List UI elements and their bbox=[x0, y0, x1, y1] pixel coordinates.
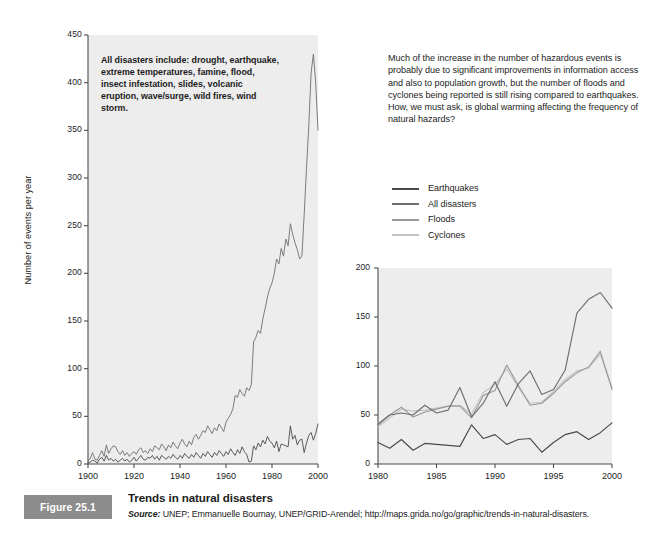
y-tick-label: 400 bbox=[48, 78, 82, 87]
legend-item-label: All disasters bbox=[428, 200, 476, 209]
legend-item: Earthquakes bbox=[392, 181, 582, 197]
y-tick-label-wrap: 450 bbox=[46, 30, 82, 40]
y-tick-label: 50 bbox=[48, 411, 82, 420]
y-tick-label-wrap: 50 bbox=[46, 411, 82, 421]
legend-color-swatch bbox=[392, 188, 419, 190]
y-tick-label-wrap: 350 bbox=[46, 125, 82, 135]
inset-chart: 05010015020019801985199019952000 bbox=[340, 255, 653, 495]
figure-container: All disasters include: drought, earthqua… bbox=[0, 0, 653, 533]
y-tick-label: 300 bbox=[48, 173, 82, 182]
legend-color-swatch bbox=[392, 234, 419, 236]
x-tick-label: 1980 bbox=[357, 472, 399, 481]
y-tick-label: 50 bbox=[340, 410, 370, 419]
x-tick-label: 1995 bbox=[533, 472, 575, 481]
y-tick-label-wrap: 200 bbox=[340, 263, 370, 273]
x-tick-label: 1900 bbox=[67, 472, 109, 481]
y-tick-label: 200 bbox=[340, 263, 370, 272]
y-tick-label: 0 bbox=[48, 459, 82, 468]
inset-chart-svg bbox=[340, 255, 653, 495]
y-tick-label: 100 bbox=[340, 361, 370, 370]
legend-color-swatch bbox=[392, 203, 419, 205]
source-keyword: Source: bbox=[128, 509, 160, 519]
y-tick-label-wrap: 400 bbox=[46, 78, 82, 88]
y-tick-label: 150 bbox=[340, 312, 370, 321]
x-tick-label: 1960 bbox=[205, 472, 247, 481]
series-line-earthquakes bbox=[378, 423, 612, 452]
y-tick-label-wrap: 300 bbox=[46, 173, 82, 183]
y-tick-label: 150 bbox=[48, 316, 82, 325]
y-tick-label-wrap: 50 bbox=[340, 410, 370, 420]
y-tick-label: 100 bbox=[48, 364, 82, 373]
series-line-all-disasters bbox=[88, 54, 318, 461]
figure-title: Trends in natural disasters bbox=[128, 491, 273, 504]
y-tick-label-wrap: 100 bbox=[340, 361, 370, 371]
figure-number-badge: Figure 25.1 bbox=[24, 495, 112, 519]
main-chart-svg bbox=[0, 0, 340, 500]
series-line-all-disasters bbox=[378, 293, 612, 425]
legend-item: Floods bbox=[392, 212, 582, 228]
x-tick-label: 1920 bbox=[113, 472, 155, 481]
source-text: UNEP; Emmanuelle Bournay, UNEP/GRID-Aren… bbox=[160, 509, 589, 519]
y-tick-label-wrap: 250 bbox=[46, 221, 82, 231]
legend-item-label: Floods bbox=[428, 215, 455, 224]
series-line-floods bbox=[378, 351, 612, 424]
y-tick-label: 450 bbox=[48, 30, 82, 39]
y-tick-label-wrap: 200 bbox=[46, 268, 82, 278]
legend-item-label: Cyclones bbox=[428, 231, 465, 240]
legend-item-label: Earthquakes bbox=[428, 184, 479, 193]
figure-caption: Figure 25.1 Trends in natural disasters … bbox=[0, 489, 653, 533]
legend-color-swatch bbox=[392, 219, 419, 221]
figure-source: Source: UNEP; Emmanuelle Bournay, UNEP/G… bbox=[128, 509, 589, 519]
y-tick-label: 250 bbox=[48, 221, 82, 230]
y-tick-label-wrap: 150 bbox=[46, 316, 82, 326]
series-line-earthquakes bbox=[88, 424, 318, 463]
y-tick-label-wrap: 150 bbox=[340, 312, 370, 322]
intro-paragraph: Much of the increase in the number of ha… bbox=[388, 52, 640, 126]
y-tick-label: 0 bbox=[340, 459, 370, 468]
legend-item: Cyclones bbox=[392, 228, 582, 244]
x-tick-label: 1940 bbox=[159, 472, 201, 481]
main-chart: All disasters include: drought, earthqua… bbox=[0, 0, 340, 500]
y-tick-label-wrap: 0 bbox=[340, 459, 370, 469]
x-tick-label: 1985 bbox=[416, 472, 458, 481]
x-tick-label: 2000 bbox=[591, 472, 633, 481]
y-tick-label: 200 bbox=[48, 268, 82, 277]
y-tick-label: 350 bbox=[48, 125, 82, 134]
legend-item: All disasters bbox=[392, 197, 582, 213]
y-tick-label-wrap: 100 bbox=[46, 364, 82, 374]
chart-legend: EarthquakesAll disastersFloodsCyclones bbox=[392, 181, 582, 243]
y-tick-label-wrap: 0 bbox=[46, 459, 82, 469]
x-tick-label: 1980 bbox=[251, 472, 293, 481]
x-tick-label: 1990 bbox=[474, 472, 516, 481]
x-tick-label: 2000 bbox=[297, 472, 339, 481]
